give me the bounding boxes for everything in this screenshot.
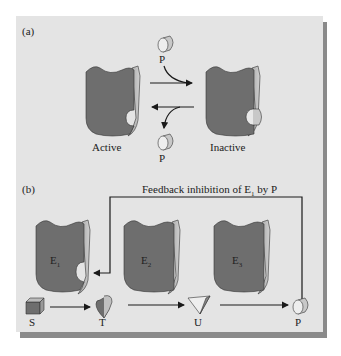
enzyme-e1-label: E1 bbox=[50, 255, 60, 269]
metabolite-t-label: T bbox=[99, 317, 106, 328]
metabolite-s-label: S bbox=[29, 317, 35, 328]
enzyme-e2-icon bbox=[124, 220, 180, 294]
enzyme-e1-icon bbox=[36, 220, 90, 294]
p-release-arrow bbox=[164, 107, 180, 128]
panel-b-label: (b) bbox=[22, 184, 35, 195]
p-molecule-bottom-icon bbox=[158, 134, 173, 150]
s-molecule-icon bbox=[26, 298, 44, 314]
active-label: Active bbox=[92, 142, 121, 153]
feedback-label: Feedback inhibition of E1 by P bbox=[142, 184, 277, 198]
diagram-canvas bbox=[0, 0, 341, 356]
metabolite-p-label: P bbox=[295, 317, 301, 328]
panel-a-label: (a) bbox=[22, 26, 34, 37]
p-molecule-top-icon bbox=[158, 36, 173, 52]
inactive-label: Inactive bbox=[210, 142, 245, 153]
t-molecule-icon bbox=[96, 296, 112, 318]
enzyme-e3-label: E3 bbox=[232, 255, 242, 269]
p-top-label: P bbox=[159, 54, 165, 65]
p-bottom-label: P bbox=[159, 153, 165, 164]
u-molecule-icon bbox=[188, 296, 210, 314]
inactive-enzyme-icon bbox=[206, 66, 262, 136]
p-binding-arrow bbox=[164, 66, 188, 83]
metabolite-u-label: U bbox=[194, 317, 202, 328]
p-molecule-product-icon bbox=[293, 298, 308, 314]
active-enzyme-icon bbox=[86, 66, 140, 136]
enzyme-e2-label: E2 bbox=[141, 255, 151, 269]
